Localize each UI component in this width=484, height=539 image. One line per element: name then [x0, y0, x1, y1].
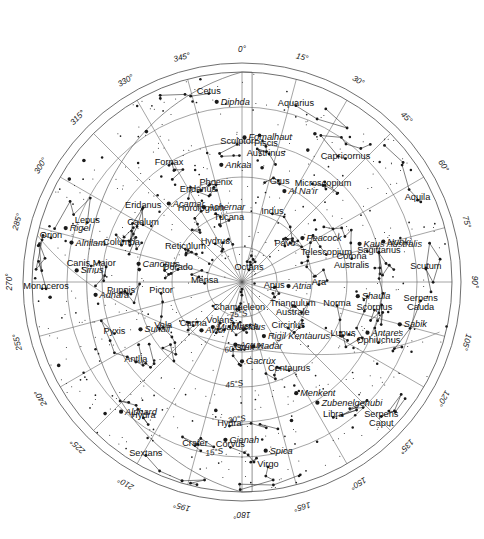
- star-point: [143, 385, 144, 386]
- constellation-vertex-star: [346, 127, 349, 130]
- star-point: [203, 167, 204, 168]
- bright-star-fomalhaut: [242, 135, 246, 139]
- star-point: [295, 116, 297, 118]
- star-point: [367, 188, 368, 189]
- star-point: [39, 326, 40, 327]
- star-point: [402, 158, 403, 159]
- star-point: [213, 419, 214, 420]
- star-point: [363, 206, 364, 207]
- constellation-label-phoenix: Phoenix: [199, 177, 233, 187]
- galactic-equator-seg: [214, 340, 221, 342]
- constellation-vertex-star: [240, 291, 243, 294]
- star-point: [261, 438, 264, 441]
- constellation-vertex-star: [158, 470, 161, 473]
- star-point: [288, 404, 289, 405]
- constellation-vertex-star: [235, 334, 238, 337]
- constellation-vertex-star: [171, 178, 174, 181]
- star-point: [138, 228, 139, 229]
- star-point: [165, 276, 166, 277]
- constellation-vertex-star: [369, 319, 372, 322]
- star-point: [192, 420, 194, 422]
- star-point: [242, 457, 243, 458]
- constellation-label-caelum: Caelum: [127, 217, 159, 227]
- star-point: [373, 360, 374, 361]
- constellation-label-line: Australe: [276, 307, 310, 317]
- star-point: [237, 132, 238, 133]
- star-point: [255, 202, 257, 204]
- constellation-vertex-star: [239, 488, 242, 491]
- star-point: [125, 448, 127, 450]
- star-point: [185, 394, 187, 396]
- star-point: [149, 429, 150, 430]
- star-point: [289, 279, 290, 280]
- star-point: [352, 347, 355, 350]
- star-point: [252, 369, 253, 370]
- star-point: [222, 477, 223, 478]
- star-point: [271, 487, 272, 488]
- star-point: [284, 386, 286, 388]
- star-point: [105, 305, 106, 306]
- star-point: [145, 130, 149, 134]
- constellation-vertex-star: [231, 243, 234, 246]
- star-point: [346, 226, 347, 227]
- star-point: [195, 388, 196, 389]
- star-point: [160, 175, 163, 178]
- star-point: [278, 250, 279, 251]
- constellation-label-corona-australis: CoronaAustralis: [334, 251, 370, 270]
- ra-tick-label-30: 30°: [351, 74, 367, 88]
- star-point: [423, 286, 424, 287]
- star-point: [298, 460, 299, 461]
- ra-tick-label-210: 210°: [116, 475, 137, 492]
- star-point: [172, 309, 173, 310]
- star-point: [106, 276, 108, 278]
- star-point: [188, 283, 189, 284]
- constellation-label-indus: Indus: [261, 206, 284, 216]
- star-point: [58, 247, 59, 248]
- star-point: [199, 78, 202, 81]
- star-point: [138, 127, 139, 128]
- ra-tick-label-255: 255°: [11, 332, 25, 352]
- constellation-vertex-star: [355, 409, 358, 412]
- star-point: [245, 476, 246, 477]
- star-point: [205, 396, 206, 397]
- star-point: [321, 117, 322, 118]
- star-point: [95, 399, 96, 400]
- star-point: [126, 441, 127, 442]
- constellation-vertex-star: [408, 188, 411, 191]
- star-point: [194, 165, 196, 167]
- constellation-vertex-star: [378, 277, 381, 280]
- star-point: [173, 416, 174, 417]
- star-point: [272, 396, 273, 397]
- constellation-vertex-star: [402, 161, 405, 164]
- star-point: [402, 283, 404, 285]
- star-point: [288, 396, 289, 397]
- star-point: [153, 196, 154, 197]
- constellation-label-aquarius: Aquarius: [278, 98, 315, 108]
- constellation-vertex-star: [247, 454, 250, 457]
- star-point: [34, 277, 37, 280]
- constellation-label-line: Cauda: [407, 302, 435, 312]
- star-point: [341, 218, 342, 219]
- star-point: [177, 427, 178, 428]
- constellation-vertex-star: [191, 228, 194, 231]
- constellation-vertex-star: [253, 461, 256, 464]
- galactic-equator-seg: [207, 338, 214, 340]
- constellation-label-tucana: Tucana: [214, 212, 245, 222]
- star-label-canopus: Canopus: [143, 259, 180, 269]
- star-label-ankaa: Ankaa: [224, 160, 251, 170]
- star-point: [208, 262, 211, 265]
- bright-star-al-na-ir: [282, 189, 286, 193]
- star-point: [284, 109, 286, 111]
- ra-tick-label-75: 75°: [461, 215, 473, 230]
- constellation-vertex-star: [401, 346, 404, 349]
- star-point: [95, 337, 96, 338]
- galactic-equator-seg: [172, 327, 179, 329]
- star-point: [372, 385, 373, 386]
- star-point: [116, 179, 117, 180]
- star-point: [319, 385, 320, 386]
- constellation-vertex-star: [388, 264, 391, 267]
- constellation-vertex-star: [350, 229, 353, 232]
- star-label-menkent: Menkent: [300, 388, 336, 398]
- star-point: [306, 124, 307, 125]
- star-point: [125, 250, 126, 251]
